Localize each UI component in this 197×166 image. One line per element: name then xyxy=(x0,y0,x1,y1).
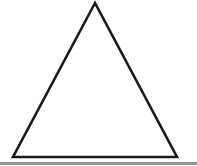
triangle-figure xyxy=(0,0,197,166)
image-canvas: Triangle outline xyxy=(0,0,197,166)
bottom-edge-shadow-band xyxy=(0,162,197,165)
